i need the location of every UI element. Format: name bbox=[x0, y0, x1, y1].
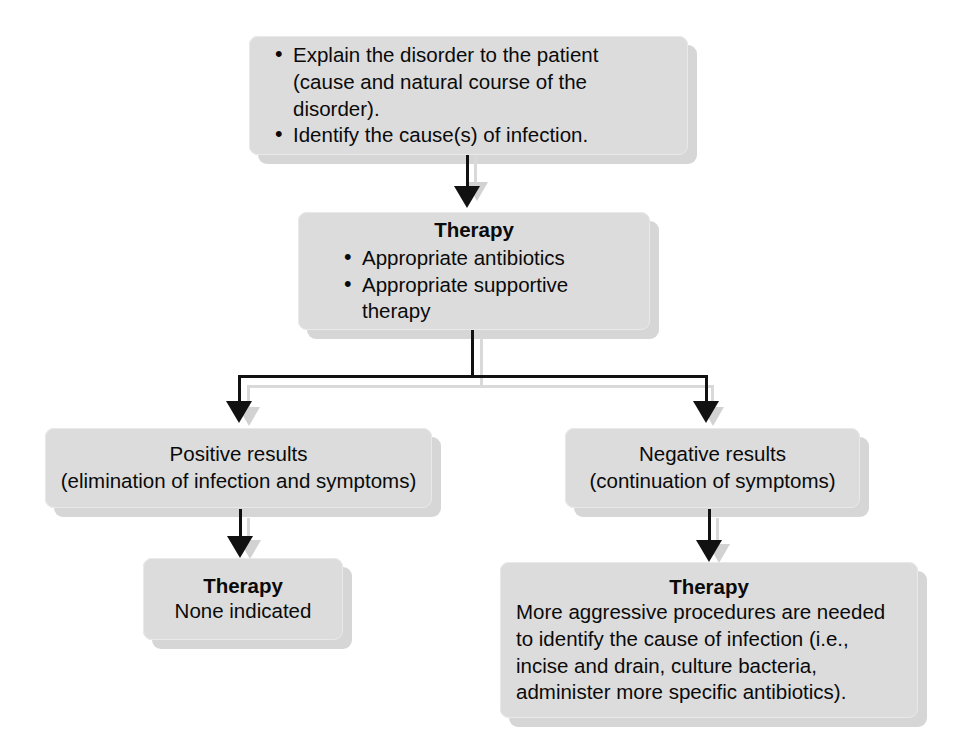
split-left-arrowhead bbox=[226, 401, 252, 423]
negative-results-line-2: (continuation of symptoms) bbox=[577, 468, 848, 495]
initial-to-therapy-line bbox=[466, 155, 469, 189]
therapy-negative-line-4: administer more specific antibiotics). bbox=[516, 679, 902, 706]
positive-to-therapy-arrowhead bbox=[227, 536, 253, 558]
therapy-main-title: Therapy bbox=[318, 217, 630, 242]
split-bar-ghost bbox=[247, 385, 714, 388]
initial-steps-bullet-1-line2: (cause and natural course of the disorde… bbox=[293, 69, 668, 122]
initial-steps-box: Explain the disorder to the patient (cau… bbox=[249, 36, 688, 155]
negative-results-box: Negative results (continuation of sympto… bbox=[565, 428, 860, 508]
therapy-negative-line-3: incise and drain, culture bacteria, bbox=[516, 653, 902, 680]
positive-results-box: Positive results (elimination of infecti… bbox=[45, 428, 432, 508]
therapy-positive-line-1: None indicated bbox=[153, 598, 333, 625]
therapy-negative-line-1: More aggressive procedures are needed bbox=[516, 599, 902, 626]
split-right-arrowhead bbox=[693, 401, 719, 423]
initial-steps-bullet-1-line1: Explain the disorder to the patient bbox=[293, 43, 598, 66]
therapy-negative-title: Therapy bbox=[516, 574, 902, 599]
negative-results-line-1: Negative results bbox=[577, 441, 848, 468]
therapy-negative-line-2: to identify the cause of infection (i.e.… bbox=[516, 626, 902, 653]
initial-steps-bullet-1: Explain the disorder to the patient (cau… bbox=[271, 42, 668, 122]
positive-results-line-1: Positive results bbox=[57, 441, 420, 468]
therapy-main-bullet-list: Appropriate antibiotics Appropriate supp… bbox=[340, 245, 630, 325]
positive-to-therapy-line bbox=[239, 509, 242, 539]
negative-to-therapy-line bbox=[708, 509, 711, 543]
split-right-drop bbox=[705, 375, 708, 403]
initial-steps-bullet-list: Explain the disorder to the patient (cau… bbox=[271, 42, 668, 149]
therapy-positive-box: Therapy None indicated bbox=[143, 558, 343, 640]
initial-to-therapy-arrowhead bbox=[454, 186, 480, 208]
flowchart-canvas: Explain the disorder to the patient (cau… bbox=[0, 0, 969, 746]
split-bar bbox=[238, 375, 708, 378]
therapy-negative-box: Therapy More aggressive procedures are n… bbox=[500, 562, 918, 718]
negative-to-therapy-arrowhead bbox=[696, 540, 722, 562]
split-stem bbox=[471, 330, 474, 378]
therapy-main-bullet-2: Appropriate supportive therapy bbox=[340, 272, 630, 325]
positive-results-line-2: (elimination of infection and symptoms) bbox=[57, 468, 420, 495]
therapy-main-box: Therapy Appropriate antibiotics Appropri… bbox=[298, 212, 650, 330]
split-left-drop bbox=[238, 375, 241, 403]
therapy-main-bullet-1: Appropriate antibiotics bbox=[340, 245, 630, 272]
initial-steps-bullet-2-line1: Identify the cause(s) of infection. bbox=[293, 123, 588, 146]
split-stem-ghost bbox=[480, 338, 483, 388]
therapy-positive-title: Therapy bbox=[153, 573, 333, 598]
initial-steps-bullet-2: Identify the cause(s) of infection. bbox=[271, 122, 668, 149]
